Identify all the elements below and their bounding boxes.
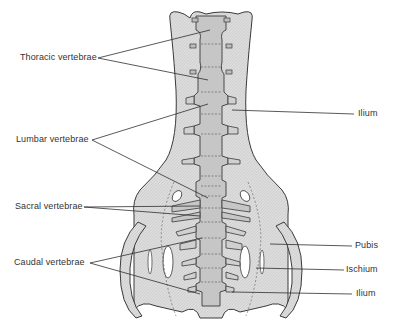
label-thoracic-vertebrae: Thoracic vertebrae: [20, 52, 97, 62]
label-caudal-vertebrae: Caudal vertebrae: [14, 257, 85, 267]
label-pubis: Pubis: [355, 240, 378, 250]
label-ilium-lower: Ilium: [356, 288, 376, 298]
label-ilium-upper: Ilium: [358, 108, 378, 118]
label-sacral-vertebrae: Sacral vertebrae: [15, 201, 83, 211]
label-lumbar-vertebrae: Lumbar vertebrae: [16, 134, 89, 144]
label-ischium: Ischium: [346, 264, 378, 274]
skeleton-diagram: [0, 0, 394, 334]
